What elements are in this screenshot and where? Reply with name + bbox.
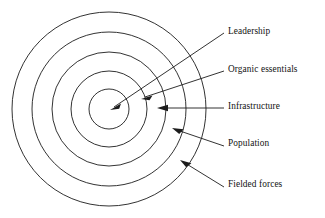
label-organic-essentials: Organic essentials: [228, 65, 298, 74]
arrowhead-infrastructure: [157, 105, 168, 111]
leader-line-infrastructure: [157, 105, 224, 111]
ring-infrastructure: [52, 52, 166, 166]
label-infrastructure: Infrastructure: [228, 102, 280, 111]
leader-line-leadership: [110, 33, 224, 110]
label-fielded-forces: Fielded forces: [228, 180, 282, 189]
label-leadership: Leadership: [228, 27, 270, 36]
arrowhead-leadership: [110, 104, 121, 110]
leader-line-fielded-forces: [180, 160, 224, 187]
diagram-page: Leadership Organic essentials Infrastruc…: [0, 0, 325, 218]
ring-fielded-forces: [12, 12, 206, 206]
ring-leadership: [89, 89, 129, 129]
label-population: Population: [228, 139, 269, 148]
leader-line-population: [172, 128, 224, 146]
ring-organic-essentials: [71, 71, 147, 147]
